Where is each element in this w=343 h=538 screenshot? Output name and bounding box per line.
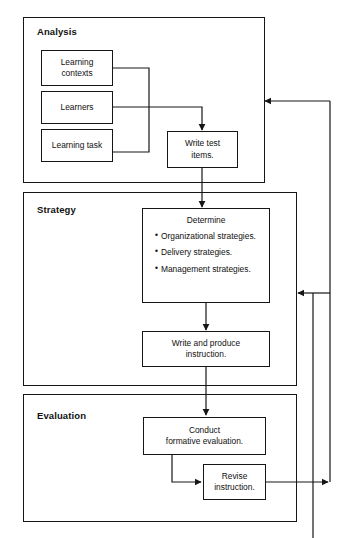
- node-determine-heading: Determine: [149, 215, 263, 226]
- node-determine-bullet-2-label: Delivery strategies.: [161, 247, 232, 258]
- node-write-test-items-line2: items.: [191, 150, 213, 161]
- node-revise-instruction-line1: Revise: [222, 471, 248, 482]
- node-determine-bullet-3-label: Management strategies.: [161, 264, 251, 275]
- node-determine[interactable]: Determine • Organizational strategies. •…: [142, 208, 270, 303]
- node-learning-contexts-line1: Learning: [61, 57, 94, 68]
- panel-evaluation-title: Evaluation: [37, 410, 86, 421]
- node-learning-contexts-line2: contexts: [61, 68, 92, 79]
- node-write-test-items[interactable]: Write test items.: [167, 131, 238, 168]
- flowchart-diagram: Analysis Learning contexts Learners Lear…: [0, 0, 343, 538]
- node-revise-instruction[interactable]: Revise instruction.: [203, 464, 266, 500]
- node-write-and-produce-line2: instruction.: [186, 349, 227, 360]
- node-conduct-formative-evaluation[interactable]: Conduct formative evaluation.: [143, 417, 266, 455]
- bullet-dot-icon: •: [155, 247, 158, 255]
- node-determine-bullet-3: • Management strategies.: [155, 264, 263, 275]
- node-revise-instruction-line2: instruction.: [214, 482, 255, 493]
- node-conduct-formative-line2: formative evaluation.: [166, 436, 243, 447]
- node-write-and-produce-instruction[interactable]: Write and produce instruction.: [142, 331, 270, 367]
- node-learners-label: Learners: [60, 102, 93, 113]
- node-determine-bullet-2: • Delivery strategies.: [155, 247, 263, 258]
- node-write-test-items-line1: Write test: [185, 138, 220, 149]
- node-determine-bullet-1: • Organizational strategies.: [155, 231, 263, 242]
- node-write-and-produce-line1: Write and produce: [172, 338, 240, 349]
- node-conduct-formative-line1: Conduct: [189, 425, 220, 436]
- panel-analysis-title: Analysis: [37, 26, 77, 37]
- bullet-dot-icon: •: [155, 231, 158, 239]
- node-learning-task[interactable]: Learning task: [41, 129, 113, 162]
- node-determine-bullet-1-label: Organizational strategies.: [161, 231, 256, 242]
- node-learners[interactable]: Learners: [41, 91, 113, 124]
- panel-strategy-title: Strategy: [37, 204, 76, 215]
- bullet-dot-icon: •: [155, 264, 158, 272]
- node-learning-contexts[interactable]: Learning contexts: [41, 50, 113, 86]
- node-learning-task-label: Learning task: [52, 140, 102, 151]
